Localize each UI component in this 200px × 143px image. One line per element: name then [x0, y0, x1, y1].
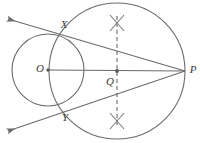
point-label-o: O: [36, 62, 44, 74]
tangent-ray-lower: [8, 71, 185, 131]
geometry-canvas: O Q P X Y: [0, 0, 200, 143]
point-label-p: P: [189, 63, 197, 75]
geometry-diagram: O Q P X Y: [0, 0, 200, 143]
point-label-y: Y: [62, 111, 70, 123]
point-q-dot: [115, 69, 119, 73]
point-o-dot: [46, 68, 49, 71]
tangent-ray-upper: [8, 19, 185, 71]
point-label-x: X: [60, 18, 69, 30]
point-label-q: Q: [106, 75, 114, 87]
